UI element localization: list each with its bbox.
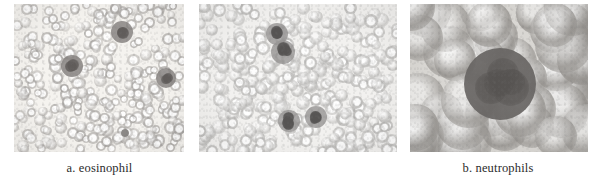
white-blood-cell: [61, 55, 83, 77]
white-blood-cell: [464, 48, 536, 120]
red-blood-cell: [14, 123, 19, 132]
red-blood-cell: [31, 50, 40, 59]
platelet: [121, 129, 129, 137]
nucleus-lobe: [163, 73, 173, 83]
white-blood-cell: [271, 40, 295, 64]
red-blood-cell: [107, 41, 118, 52]
red-blood-cell: [145, 132, 157, 144]
red-blood-cell: [84, 29, 93, 38]
figure-panel-neutrophils: b. neutrophils: [199, 0, 399, 187]
red-blood-cell: [111, 98, 120, 107]
red-blood-cell: [46, 139, 58, 151]
red-blood-cell: [105, 84, 118, 97]
red-blood-cell: [213, 49, 225, 61]
red-blood-cell: [71, 77, 84, 90]
red-blood-cell: [114, 75, 122, 83]
red-blood-cell: [381, 93, 392, 104]
red-blood-cell: [533, 4, 577, 47]
red-blood-cell: [168, 116, 178, 126]
red-blood-cell: [231, 102, 241, 112]
red-blood-cell: [206, 145, 218, 152]
white-blood-cell: [156, 68, 176, 88]
red-blood-cell: [172, 96, 181, 105]
red-blood-cell: [383, 74, 394, 85]
red-blood-cell: [127, 54, 139, 66]
red-blood-cell: [20, 68, 30, 78]
red-blood-cell: [137, 4, 149, 14]
red-blood-cell: [178, 32, 184, 43]
red-blood-cell: [60, 11, 70, 21]
red-blood-cell: [317, 41, 328, 52]
red-blood-cell: [213, 4, 226, 17]
red-blood-cell: [67, 35, 78, 46]
red-blood-cell: [387, 60, 397, 71]
red-blood-cell: [145, 105, 155, 115]
red-blood-cell: [385, 46, 397, 59]
red-blood-cell: [289, 14, 301, 26]
red-blood-cell: [35, 140, 44, 149]
red-blood-cell: [73, 102, 82, 111]
red-blood-cell: [94, 75, 106, 87]
red-blood-cell: [307, 71, 318, 82]
red-blood-cell: [25, 132, 37, 144]
red-blood-cell: [362, 106, 375, 119]
red-blood-cell: [60, 84, 69, 93]
red-blood-cell: [205, 127, 216, 138]
red-blood-cell: [69, 116, 78, 125]
red-blood-cell: [386, 134, 397, 146]
red-blood-cell: [157, 15, 166, 24]
micrograph-figure: a. eosinophil b. neutrophils c. basophil: [0, 0, 598, 187]
red-blood-cell: [331, 58, 344, 71]
red-blood-cell: [140, 49, 152, 61]
micrograph-image-basophil: [410, 4, 588, 152]
white-blood-cell: [278, 110, 300, 132]
red-blood-cell: [20, 145, 30, 152]
white-blood-cell: [305, 106, 327, 128]
red-blood-cell: [257, 84, 268, 95]
red-blood-cell: [52, 72, 63, 83]
red-blood-cell: [282, 71, 294, 83]
red-blood-cell: [244, 125, 257, 138]
red-blood-cell: [96, 15, 108, 27]
red-blood-cell: [89, 110, 101, 122]
red-blood-cell: [120, 95, 128, 103]
red-blood-cell: [211, 39, 222, 50]
white-blood-cell: [111, 21, 133, 43]
figure-panel-eosinophil: a. eosinophil: [0, 0, 199, 187]
red-blood-cell: [180, 146, 184, 152]
red-blood-cell: [206, 24, 218, 36]
red-blood-cell: [26, 98, 35, 107]
red-blood-cell: [377, 109, 390, 122]
nucleus-lobe: [282, 47, 291, 56]
red-blood-cell: [249, 9, 260, 20]
micrograph-image-neutrophils: [199, 4, 397, 152]
red-blood-cell: [92, 44, 101, 53]
red-blood-cell: [308, 11, 319, 22]
red-blood-cell: [266, 72, 280, 86]
red-blood-cell: [259, 122, 271, 134]
red-blood-cell: [41, 32, 53, 44]
red-blood-cell: [201, 57, 213, 69]
nucleus-lobe: [273, 28, 282, 37]
red-blood-cell: [199, 80, 209, 94]
red-blood-cell: [271, 91, 284, 104]
red-blood-cell: [535, 116, 577, 152]
red-blood-cell: [129, 115, 137, 123]
red-blood-cell: [43, 127, 51, 135]
red-blood-cell: [274, 7, 286, 19]
red-blood-cell: [167, 17, 177, 27]
red-blood-cell: [214, 83, 225, 94]
red-blood-cell: [227, 117, 238, 128]
red-blood-cell: [130, 145, 139, 152]
nucleus-lobe: [310, 111, 321, 122]
red-blood-cell: [345, 12, 356, 23]
red-blood-cell: [364, 14, 378, 28]
red-blood-cell: [236, 145, 249, 152]
red-blood-cell: [21, 4, 33, 15]
red-blood-cell: [61, 22, 71, 32]
red-blood-cell: [235, 34, 247, 46]
red-blood-cell: [334, 139, 348, 152]
red-blood-cell: [234, 52, 247, 65]
red-blood-cell: [391, 28, 397, 39]
red-blood-cell: [119, 8, 130, 19]
